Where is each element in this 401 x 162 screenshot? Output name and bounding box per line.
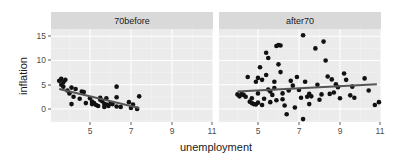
data-point (262, 96, 267, 101)
data-point (250, 96, 255, 101)
data-point (73, 87, 78, 92)
data-point (272, 79, 277, 84)
data-point (338, 96, 343, 101)
data-point (332, 90, 337, 95)
data-point (276, 62, 281, 67)
data-point (127, 100, 132, 105)
data-point (266, 56, 271, 61)
x-tick-7-right: 7 (297, 126, 302, 136)
data-point (299, 95, 304, 100)
data-point (323, 58, 328, 63)
data-point (373, 103, 378, 108)
x-tick-7-left: 7 (129, 126, 134, 136)
data-point (317, 97, 322, 102)
data-point (114, 84, 119, 89)
data-point (84, 101, 89, 106)
data-point (280, 97, 285, 102)
data-point (264, 73, 269, 78)
data-point (288, 79, 293, 84)
data-point (280, 91, 285, 96)
data-point (256, 76, 261, 81)
x-tick-5-right: 5 (256, 126, 261, 136)
data-point (71, 95, 76, 100)
y-axis-title: inflation (17, 57, 29, 95)
data-point (329, 77, 334, 82)
y-tick-0: 0 (41, 104, 46, 114)
data-point (295, 75, 300, 80)
data-point (352, 95, 357, 100)
data-point (348, 93, 353, 98)
data-point (137, 94, 142, 99)
x-tick-11-left: 11 (208, 126, 217, 136)
panel-70before (51, 29, 213, 122)
data-point (278, 43, 283, 48)
y-axis: 15 10 5 0 (37, 31, 51, 114)
y-tick-15: 15 (37, 31, 47, 41)
data-point (313, 46, 318, 51)
data-point (69, 102, 74, 107)
x-tick-5-left: 5 (88, 126, 93, 136)
y-tick-5: 5 (41, 80, 46, 90)
data-point (114, 95, 119, 100)
x-axis-after70: 5 7 9 11 (256, 122, 385, 136)
data-point (344, 78, 349, 83)
data-point (366, 88, 371, 93)
data-point (264, 50, 269, 55)
faceted-scatter-chart: 70before after70 15 10 5 0 inflation 5 7… (0, 0, 401, 162)
data-point (114, 104, 119, 109)
data-point (61, 84, 66, 89)
data-point (362, 76, 367, 81)
x-axis-title: unemployment (180, 141, 252, 153)
data-point (303, 79, 308, 84)
data-point (96, 104, 101, 109)
data-point (307, 102, 312, 107)
data-point (243, 95, 248, 100)
x-axis-70before: 5 7 9 11 (88, 122, 217, 136)
data-point (291, 83, 296, 88)
data-point (377, 100, 382, 105)
data-point (69, 85, 74, 90)
data-point (268, 100, 273, 105)
data-point (301, 117, 306, 122)
data-point (256, 91, 261, 96)
x-tick-9-left: 9 (170, 126, 175, 136)
data-point (260, 78, 265, 83)
data-point (270, 93, 275, 98)
data-point (274, 98, 279, 103)
panel-after70 (219, 29, 381, 122)
x-tick-9-right: 9 (338, 126, 343, 136)
data-point (321, 39, 326, 44)
data-point (63, 78, 68, 83)
strip-label-after70: after70 (286, 16, 314, 26)
data-point (256, 100, 261, 105)
data-point (278, 70, 283, 75)
data-point (319, 92, 324, 97)
data-point (258, 65, 263, 70)
data-point (77, 96, 82, 101)
data-point (325, 74, 330, 79)
data-point (342, 71, 347, 76)
y-tick-10: 10 (37, 55, 47, 65)
data-point (282, 103, 287, 108)
strip-label-70before: 70before (114, 16, 150, 26)
data-point (118, 105, 123, 110)
data-point (284, 112, 289, 117)
x-tick-11-right: 11 (376, 126, 385, 136)
data-point (245, 75, 250, 80)
data-point (260, 103, 265, 108)
data-point (309, 94, 314, 99)
data-point (254, 79, 259, 84)
data-point (327, 92, 332, 97)
data-point (301, 33, 306, 38)
data-point (293, 105, 298, 110)
